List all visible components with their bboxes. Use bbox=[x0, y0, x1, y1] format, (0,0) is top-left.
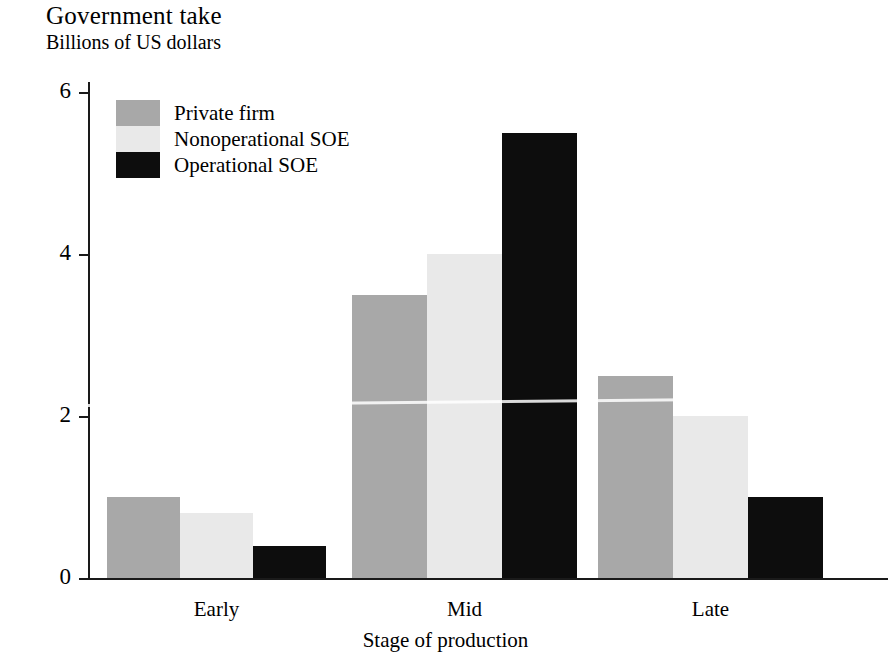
bar bbox=[180, 513, 253, 578]
bar bbox=[748, 497, 823, 578]
bar bbox=[502, 133, 577, 579]
legend-label: Operational SOE bbox=[174, 153, 318, 177]
x-axis-line bbox=[88, 578, 888, 580]
bar bbox=[598, 376, 673, 579]
legend-swatch bbox=[116, 152, 160, 178]
legend-item: Private firm bbox=[116, 100, 350, 126]
bar bbox=[427, 254, 502, 578]
bars-layer bbox=[0, 0, 891, 578]
legend-label: Private firm bbox=[174, 101, 275, 125]
x-axis-group-label: Early bbox=[107, 597, 326, 621]
legend-item: Operational SOE bbox=[116, 152, 350, 178]
bar bbox=[673, 416, 748, 578]
y-axis-tick: 0 bbox=[79, 578, 89, 580]
x-axis-group-label: Mid bbox=[352, 597, 577, 621]
x-axis-group-label: Late bbox=[598, 597, 823, 621]
legend-label: Nonoperational SOE bbox=[174, 127, 350, 151]
bar bbox=[352, 295, 427, 579]
legend-swatch bbox=[116, 100, 160, 126]
x-axis-title: Stage of production bbox=[0, 628, 891, 652]
legend-swatch bbox=[116, 126, 160, 152]
legend: Private firmNonoperational SOEOperationa… bbox=[116, 100, 350, 178]
bar bbox=[107, 497, 180, 578]
bar bbox=[253, 546, 326, 578]
legend-item: Nonoperational SOE bbox=[116, 126, 350, 152]
